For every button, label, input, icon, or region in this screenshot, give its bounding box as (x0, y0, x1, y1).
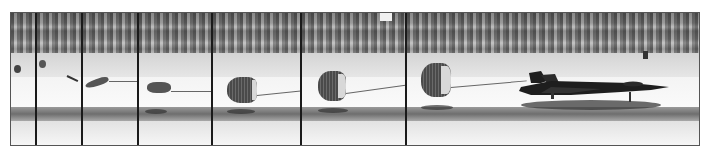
photo-panel-5 (213, 13, 301, 145)
photo-panel-7 (407, 13, 700, 145)
photo-sequence-strip (10, 12, 700, 146)
filling-chute-icon (147, 82, 171, 93)
photo-panel-4 (139, 13, 212, 145)
inflating-chute-icon (227, 77, 257, 103)
photo-panel-1 (11, 13, 36, 145)
full-chute-icon (421, 63, 451, 97)
pilot-chute-icon (39, 60, 46, 68)
runway-marker (643, 51, 648, 59)
inflated-chute-icon (318, 71, 346, 101)
chute-pack-icon (14, 65, 21, 73)
photo-panel-2 (37, 13, 82, 145)
photo-panel-6 (302, 13, 406, 145)
sr71-aircraft-icon (511, 65, 681, 113)
photo-panel-3 (83, 13, 138, 145)
